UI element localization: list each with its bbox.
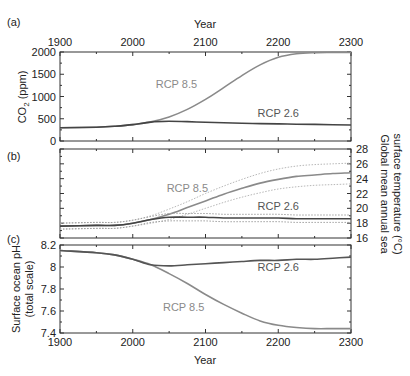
y-axis-title-a-unit: (ppm)	[16, 71, 28, 103]
series-line-rcp-2-6	[60, 121, 351, 128]
y-tick-label: 8.2	[41, 239, 56, 251]
panel-b: 16182022242628RCP 8.5RCP 2.6	[60, 143, 368, 244]
y-tick-label: 7.4	[41, 327, 56, 339]
y-tick-label: 1000	[32, 91, 56, 103]
series-annotation: RCP 2.6	[258, 107, 299, 119]
x-tick-label: 2000	[121, 36, 145, 48]
y-tick-label: 28	[356, 143, 368, 155]
x-tick-label: 2300	[339, 336, 363, 348]
top-x-axis-title: Year	[194, 18, 217, 30]
series-line-rcp-2-6	[60, 251, 351, 266]
y-tick-label: 7.8	[41, 283, 56, 295]
y-tick-label: 8	[50, 261, 56, 273]
series-line-rcp-8-5	[60, 251, 351, 329]
y-axis-title-b-line2: surface temperature (°C)	[392, 133, 404, 254]
y-axis-title-a-main: CO	[16, 106, 28, 123]
series-line-rcp-2-6	[60, 217, 351, 226]
panel-a: 190020002100220023000500100015002000RCP …	[32, 36, 364, 147]
y-axis-title-c: Surface ocean pH (total scale)	[10, 245, 35, 333]
bottom-x-axis-title: Year	[194, 354, 217, 366]
y-tick-label: 16	[356, 232, 368, 244]
series-annotation: RCP 8.5	[156, 78, 197, 90]
series-annotation: RCP 2.6	[258, 200, 299, 212]
x-tick-label: 2300	[339, 36, 363, 48]
series-annotation: RCP 8.5	[163, 301, 204, 313]
plot-frame	[60, 245, 351, 333]
panel-c-label: (c)	[7, 233, 20, 245]
climate-projection-chart: (a) Year (b) (c) Year CO2 (ppm) Global m…	[0, 0, 410, 376]
y-axis-title-c-line1: Surface ocean pH	[10, 245, 22, 333]
y-tick-label: 24	[356, 173, 368, 185]
svg-text:CO2 (ppm): CO2 (ppm)	[16, 71, 31, 124]
series-annotation: RCP 8.5	[167, 182, 208, 194]
y-tick-label: 2000	[32, 46, 56, 58]
series-annotation: RCP 2.6	[258, 261, 299, 273]
y-tick-label: 26	[356, 158, 368, 170]
y-tick-label: 22	[356, 188, 368, 200]
x-tick-label: 2200	[266, 336, 290, 348]
y-axis-title-b-line1: Global mean annual sea	[379, 134, 391, 254]
panel-a-label: (a)	[7, 16, 20, 28]
y-tick-label: 7.6	[41, 305, 56, 317]
y-axis-title-a: CO2 (ppm)	[16, 71, 31, 124]
panel-b-label: (b)	[7, 150, 20, 162]
y-tick-label: 1500	[32, 68, 56, 80]
x-tick-label: 2100	[193, 36, 217, 48]
y-tick-label: 18	[356, 217, 368, 229]
y-tick-label: 500	[38, 113, 56, 125]
y-tick-label: 0	[50, 135, 56, 147]
y-axis-title-b: Global mean annual sea surface temperatu…	[379, 133, 404, 254]
y-axis-title-c-line2: (total scale)	[23, 261, 35, 318]
panel-c: 190020002100220023007.47.67.888.2RCP 2.6…	[41, 239, 364, 348]
x-tick-label: 2100	[193, 336, 217, 348]
plot-area: 190020002100220023000500100015002000RCP …	[32, 36, 369, 348]
x-tick-label: 2200	[266, 36, 290, 48]
series-line-rcp-8-5	[60, 52, 351, 127]
x-tick-label: 2000	[121, 336, 145, 348]
y-tick-label: 20	[356, 202, 368, 214]
